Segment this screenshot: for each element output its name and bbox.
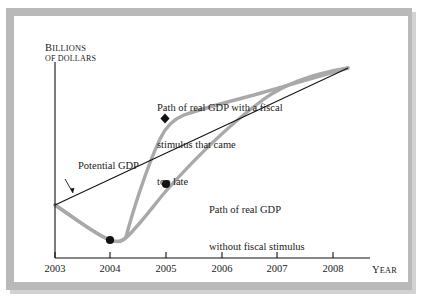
x-axis-title-rest: EAR xyxy=(380,266,397,275)
x-tick-label-2003: 2003 xyxy=(32,263,78,275)
annotation-no-stimulus-line2: without fiscal stimulus xyxy=(209,241,305,253)
x-tick-label-2007: 2007 xyxy=(254,263,300,275)
annotation-late-stimulus-line2: stimulus that came xyxy=(157,139,283,151)
x-tick-label-2006: 2006 xyxy=(199,263,245,275)
x-tick-label-2005: 2005 xyxy=(143,263,189,275)
plot-area: BILLIONS OF DOLLARS Path of real GDP wit… xyxy=(14,16,408,282)
x-tick-label-2004: 2004 xyxy=(87,263,133,275)
x-tick-label-2008: 2008 xyxy=(310,263,356,275)
figure-root: BILLIONS OF DOLLARS Path of real GDP wit… xyxy=(0,0,424,305)
y-axis-unit-rest: ILLIONS xyxy=(52,44,86,53)
marker-trough-2004 xyxy=(106,236,114,244)
y-axis-unit-line1: BILLIONS xyxy=(45,42,86,54)
x-axis-title: YEAR xyxy=(372,264,397,276)
x-axis-title-initial: Y xyxy=(372,264,380,275)
annotation-potential-gdp: Potential GDP xyxy=(78,160,139,172)
annotation-late-stimulus-line1: Path of real GDP with a fiscal xyxy=(157,102,283,114)
y-axis-unit-line2: OF DOLLARS xyxy=(45,54,96,63)
annotation-no-stimulus-line1: Path of real GDP xyxy=(209,204,305,216)
